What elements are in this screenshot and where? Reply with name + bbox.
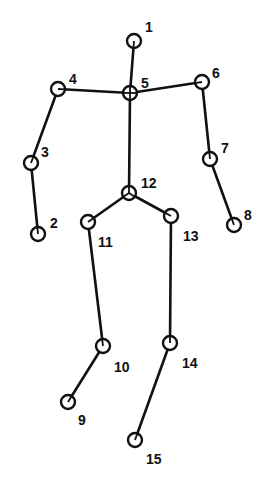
joint-label-12: 12 bbox=[141, 175, 157, 191]
joint-2 bbox=[31, 227, 45, 241]
joint-label-3: 3 bbox=[41, 144, 49, 160]
bone-10-9 bbox=[68, 346, 103, 402]
joint-label-1: 1 bbox=[145, 19, 153, 35]
joint-12 bbox=[122, 186, 136, 200]
joint-1 bbox=[127, 34, 141, 48]
joint-label-5: 5 bbox=[141, 75, 149, 91]
bone-5-12 bbox=[129, 93, 130, 193]
skeleton-diagram: 123456789101112131415 bbox=[0, 0, 269, 488]
joint-9 bbox=[61, 395, 75, 409]
joint-3 bbox=[24, 156, 38, 170]
joint-6 bbox=[195, 75, 209, 89]
joint-13 bbox=[164, 209, 178, 223]
joint-label-8: 8 bbox=[244, 207, 252, 223]
joint-4 bbox=[51, 82, 65, 96]
joint-label-14: 14 bbox=[182, 355, 198, 371]
joint-label-6: 6 bbox=[212, 65, 220, 81]
joint-11 bbox=[81, 215, 95, 229]
bone-3-2 bbox=[31, 163, 38, 234]
joint-label-2: 2 bbox=[50, 215, 58, 231]
joint-8 bbox=[227, 218, 241, 232]
joint-label-7: 7 bbox=[221, 140, 229, 156]
joints-layer bbox=[24, 34, 241, 447]
bone-6-7 bbox=[202, 82, 210, 159]
joint-5 bbox=[123, 86, 137, 100]
bone-14-15 bbox=[135, 343, 170, 440]
joint-7 bbox=[203, 152, 217, 166]
joint-label-9: 9 bbox=[78, 412, 86, 428]
bone-7-8 bbox=[210, 159, 234, 225]
bones-layer bbox=[31, 41, 234, 440]
joint-label-15: 15 bbox=[146, 451, 162, 467]
joint-10 bbox=[96, 339, 110, 353]
joint-label-4: 4 bbox=[69, 71, 77, 87]
bone-13-14 bbox=[170, 216, 171, 343]
joint-label-11: 11 bbox=[98, 234, 113, 250]
joint-14 bbox=[163, 336, 177, 350]
joint-15 bbox=[128, 433, 142, 447]
joint-label-10: 10 bbox=[114, 359, 130, 375]
bone-4-5 bbox=[58, 89, 130, 93]
joint-label-13: 13 bbox=[183, 228, 199, 244]
